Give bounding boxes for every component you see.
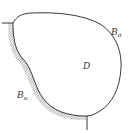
b-sigma-sub: σ [118,31,122,38]
boundary-b-sigma-label: Bσ [111,28,122,38]
domain-diagram [0,0,132,133]
b-u-main: B [17,90,24,100]
fixed-support-hatching [8,23,87,120]
domain-label-text: D [83,61,90,71]
domain-label: D [83,62,90,71]
boundary-b-sigma [13,13,121,116]
boundary-b-u-label: Bu [17,91,28,101]
b-u-sub: u [24,94,28,101]
b-sigma-main: B [111,27,118,37]
